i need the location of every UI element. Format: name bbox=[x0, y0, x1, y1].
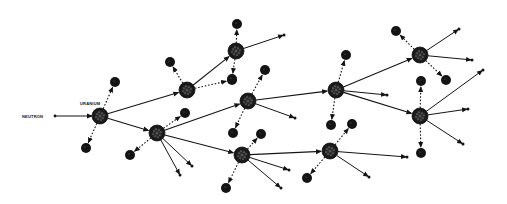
neutron-arrow bbox=[165, 104, 240, 130]
fragment-path bbox=[195, 81, 226, 88]
fragment-path bbox=[236, 108, 245, 127]
nucleus-speckle bbox=[103, 114, 104, 115]
nucleus-speckle bbox=[333, 149, 334, 150]
nucleus-speckle bbox=[326, 148, 327, 149]
nucleus-speckle bbox=[325, 151, 326, 152]
free-neutron-arrow bbox=[337, 155, 369, 176]
nucleus-speckle bbox=[419, 115, 420, 116]
fission-fragment bbox=[416, 148, 426, 158]
nucleus-speckle bbox=[331, 90, 332, 91]
nucleus-speckle bbox=[239, 157, 240, 158]
fragment-path bbox=[252, 75, 262, 94]
nucleus-speckle bbox=[421, 51, 422, 52]
nucleus-speckle bbox=[186, 89, 187, 90]
fission-fragment bbox=[260, 65, 270, 75]
nucleus-speckle bbox=[415, 55, 416, 56]
free-neutron-paths bbox=[161, 28, 485, 190]
nucleus-speckle bbox=[417, 118, 418, 119]
neutron-dot bbox=[482, 69, 485, 72]
neutron-arrow bbox=[193, 57, 229, 85]
neutron-dot bbox=[368, 176, 371, 179]
fission-fragment bbox=[227, 74, 237, 84]
nucleus-speckle bbox=[99, 115, 100, 116]
nucleus-speckle bbox=[96, 113, 97, 114]
nucleus-speckle bbox=[233, 53, 234, 54]
neutron-dot bbox=[294, 117, 297, 120]
nucleus-speckle bbox=[246, 96, 247, 97]
neutron-arrow bbox=[256, 91, 327, 100]
free-neutron-arrow bbox=[248, 160, 280, 187]
nucleus-speckle bbox=[335, 89, 336, 90]
neutron-dot bbox=[283, 34, 286, 37]
fragment-speck bbox=[394, 29, 395, 30]
fragment-path bbox=[338, 61, 344, 83]
free-neutron-arrow bbox=[244, 35, 283, 48]
nucleus-speckle bbox=[236, 54, 237, 55]
nucleus-speckle bbox=[152, 133, 153, 134]
nucleus-speckle bbox=[329, 150, 330, 151]
nucleus-speckle bbox=[247, 100, 248, 101]
neutron-label: NEUTRON bbox=[22, 114, 43, 119]
fragment-speck bbox=[224, 186, 225, 187]
free-neutron-arrow bbox=[428, 56, 471, 60]
nucleus-speckle bbox=[183, 87, 184, 88]
neutron-dot bbox=[462, 143, 465, 146]
fission-fragment bbox=[341, 50, 351, 60]
nucleus-speckle bbox=[97, 118, 98, 119]
nucleus-speckle bbox=[243, 151, 244, 152]
nucleus-speckle bbox=[416, 113, 417, 114]
nucleus-speckle bbox=[242, 158, 243, 159]
nucleus-speckle bbox=[154, 135, 155, 136]
fission-fragment bbox=[326, 120, 336, 130]
fragment-speck bbox=[444, 78, 445, 79]
fragment-path bbox=[247, 138, 257, 149]
neutron-dot bbox=[386, 94, 389, 97]
nucleus-speckle bbox=[245, 103, 246, 104]
neutron-dot bbox=[467, 108, 470, 111]
nucleus-speckle bbox=[189, 91, 190, 92]
nucleus-speckle bbox=[416, 52, 417, 53]
fragment-path bbox=[88, 123, 96, 142]
nucleus-speckle bbox=[190, 88, 191, 89]
neutron-dot bbox=[458, 28, 461, 31]
neutron-dot bbox=[471, 59, 474, 62]
nucleus-speckle bbox=[188, 86, 189, 87]
fragment-path bbox=[332, 98, 335, 119]
nucleus-speckle bbox=[249, 97, 250, 98]
fragment-speck bbox=[329, 123, 330, 124]
nucleus-speckle bbox=[336, 93, 337, 94]
nucleus-speckle bbox=[415, 116, 416, 117]
nucleus-speckle bbox=[98, 111, 99, 112]
nucleus-speckle bbox=[187, 93, 188, 94]
fragment-path bbox=[400, 35, 414, 49]
nucleus-speckle bbox=[250, 102, 251, 103]
fragment-path bbox=[173, 67, 183, 83]
nucleus-speckle bbox=[102, 117, 103, 118]
fragment-speck bbox=[259, 132, 260, 133]
nucleus-speckle bbox=[244, 156, 245, 157]
nucleus-speckle bbox=[423, 53, 424, 54]
nucleus-speckle bbox=[332, 152, 333, 153]
neutron-dot bbox=[288, 169, 291, 172]
nucleus-speckle bbox=[338, 91, 339, 92]
nucleus-speckle bbox=[339, 88, 340, 89]
nucleus-speckle bbox=[232, 48, 233, 49]
fragment-path bbox=[420, 87, 421, 108]
fragment-speck bbox=[263, 68, 264, 69]
fragment-speck bbox=[84, 146, 85, 147]
nucleus-speckle bbox=[244, 98, 245, 99]
free-neutron-arrow bbox=[250, 157, 288, 169]
fragment-path bbox=[135, 138, 151, 151]
nucleus-speckle bbox=[238, 52, 239, 53]
fragment-speck bbox=[168, 60, 169, 61]
nucleus-speckle bbox=[418, 111, 419, 112]
nucleus-speckle bbox=[238, 152, 239, 153]
neutron-arrow bbox=[250, 151, 321, 154]
nucleus-speckle bbox=[331, 147, 332, 148]
neutron-paths bbox=[54, 57, 412, 155]
fission-fragments bbox=[81, 19, 451, 193]
nucleus-speckle bbox=[240, 150, 241, 151]
fragment-speck bbox=[350, 122, 351, 123]
fragment-speck bbox=[230, 77, 231, 78]
fission-fragment bbox=[256, 129, 266, 139]
